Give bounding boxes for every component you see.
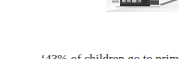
pull-quote: ‘43% of children go to primaryschool, 35… <box>41 23 179 59</box>
quote-line-1: ‘43% of children go to primary <box>41 52 179 59</box>
page-canvas: ‘43% of children go to primaryschool, 35… <box>0 0 179 59</box>
photo-fragment <box>106 0 179 12</box>
